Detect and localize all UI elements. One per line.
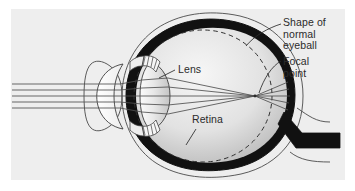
eye-diagram-figure: Shape of normal eyeball Focal point Lens…	[0, 0, 355, 191]
focal-point-marker	[254, 95, 257, 98]
label-focal-point: Focal point	[283, 56, 309, 79]
label-retina: Retina	[192, 114, 223, 126]
label-lens: Lens	[178, 64, 201, 76]
optic-nerve	[278, 108, 340, 162]
cornea	[97, 64, 123, 129]
label-shape-of-normal-eyeball: Shape of normal eyeball	[283, 17, 326, 52]
